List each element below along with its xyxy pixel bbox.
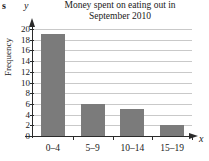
x-axis-line [25,136,192,137]
y-axis-tick-label: 4 [8,111,30,120]
x-axis-arrowhead-icon [189,133,198,139]
frequency-bar-chart: s Money spent on eating out in September… [0,0,209,161]
y-axis-tick-label: 10 [8,79,30,88]
y-axis-tick-label: 16 [8,46,30,55]
y-axis-tick-labels: 02468101214161820 [6,29,30,136]
stray-cropped-glyph: s [2,0,6,11]
x-axis-tick [192,136,193,140]
bar [120,109,144,136]
chart-title: Money spent on eating out in September 2… [36,0,204,21]
x-axis-tick-label: 0–4 [33,143,73,154]
y-axis-arrowhead-icon [29,18,35,27]
chart-title-line-2: September 2010 [36,11,204,22]
x-axis-tick [73,136,74,140]
y-axis-tick-label: 14 [8,57,30,66]
x-axis-letter: x [199,133,203,144]
y-axis-tick-label: 8 [8,89,30,98]
y-axis-tick-label: 2 [8,121,30,130]
bar [41,34,65,136]
x-axis-tick-label: 5–9 [73,143,113,154]
bar [160,125,184,136]
x-axis-tick [152,136,153,140]
x-axis-tick [113,136,114,140]
y-axis-tick-label: 20 [8,25,30,34]
bar [81,104,105,136]
y-axis-tick-label: 12 [8,68,30,77]
x-axis-tick-label: 15–19 [152,143,192,154]
y-axis-tick-label: 18 [8,36,30,45]
y-axis-line [32,26,33,138]
x-axis-tick-label: 10–14 [113,143,153,154]
plot-area [33,29,192,136]
chart-title-line-1: Money spent on eating out in [36,0,204,11]
y-axis-tick-label: 6 [8,100,30,109]
y-axis-letter: y [24,0,28,11]
gridline [33,29,192,30]
